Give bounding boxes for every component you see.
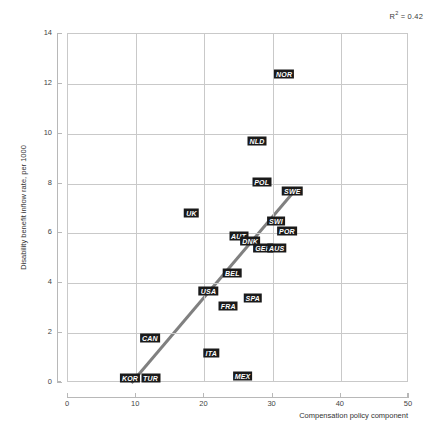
y-tick-mark xyxy=(57,133,62,134)
data-point-label-ita: ITA xyxy=(204,349,219,358)
gridline-vertical xyxy=(136,34,137,381)
y-axis-spine xyxy=(57,33,61,382)
x-tick-label: 30 xyxy=(257,400,287,408)
data-point-label-spa: SPA xyxy=(244,294,262,303)
x-tick-label: 0 xyxy=(52,400,82,408)
data-point-label-nor: NOR xyxy=(274,69,294,78)
trendline xyxy=(68,34,409,383)
y-tick-mark xyxy=(57,33,62,34)
gridline-horizontal xyxy=(68,134,407,135)
data-point-label-kor: KOR xyxy=(120,374,140,383)
x-tick-label: 20 xyxy=(188,400,218,408)
y-tick-mark xyxy=(57,232,62,233)
x-tick-mark xyxy=(340,393,341,398)
x-tick-mark xyxy=(135,393,136,398)
x-tick-label: 10 xyxy=(120,400,150,408)
r-squared-annotation: R2 = 0.42 xyxy=(390,10,423,21)
x-tick-mark xyxy=(408,393,409,398)
x-tick-mark xyxy=(272,393,273,398)
gridline-horizontal xyxy=(68,283,407,284)
x-axis-spine xyxy=(67,393,408,398)
data-point-label-pol: POL xyxy=(252,178,271,187)
gridline-horizontal xyxy=(68,333,407,334)
x-tick-label: 40 xyxy=(325,400,355,408)
data-point-label-uk: UK xyxy=(184,209,199,218)
y-tick-label: 6 xyxy=(48,228,52,236)
data-point-label-tur: TUR xyxy=(141,374,160,383)
gridline-vertical xyxy=(273,34,274,381)
data-point-label-fra: FRA xyxy=(219,301,238,310)
y-tick-label: 0 xyxy=(48,378,52,386)
x-tick-label: 50 xyxy=(393,400,423,408)
data-point-label-bel: BEL xyxy=(223,269,242,278)
data-point-label-swi: SWI xyxy=(267,216,285,225)
y-tick-mark xyxy=(57,282,62,283)
r-squared-suffix: = 0.42 xyxy=(398,12,423,21)
y-tick-label: 14 xyxy=(44,29,52,37)
y-tick-label: 8 xyxy=(48,179,52,187)
x-tick-mark xyxy=(67,393,68,398)
gridline-vertical xyxy=(204,34,205,381)
gridline-vertical xyxy=(341,34,342,381)
data-point-label-nld: NLD xyxy=(247,137,266,146)
data-point-label-can: CAN xyxy=(140,334,160,343)
y-tick-mark xyxy=(57,183,62,184)
scatter-chart-figure: R2 = 0.42 Disability benefit inflow rate… xyxy=(0,0,431,444)
gridline-horizontal xyxy=(68,84,407,85)
y-tick-label: 4 xyxy=(48,278,52,286)
y-tick-label: 12 xyxy=(44,79,52,87)
y-tick-mark xyxy=(57,382,62,383)
y-tick-mark xyxy=(57,332,62,333)
y-axis-title: Disability benefit inflow rate, per 1000 xyxy=(18,33,29,382)
data-point-label-por: POR xyxy=(277,226,297,235)
data-point-label-mex: MEX xyxy=(233,371,253,380)
data-point-label-aus: AUS xyxy=(267,244,286,253)
data-point-label-usa: USA xyxy=(199,286,218,295)
y-tick-label: 2 xyxy=(48,328,52,336)
y-tick-label: 10 xyxy=(44,129,52,137)
y-tick-mark xyxy=(57,83,62,84)
gridline-horizontal xyxy=(68,184,407,185)
x-tick-mark xyxy=(203,393,204,398)
plot-area: NORNLDPOLSWEUKSWIPORAUTDNKGERAUSBELUSASP… xyxy=(67,33,408,382)
x-axis-title: Compensation policy component xyxy=(68,411,408,420)
data-point-label-swe: SWE xyxy=(282,187,303,196)
